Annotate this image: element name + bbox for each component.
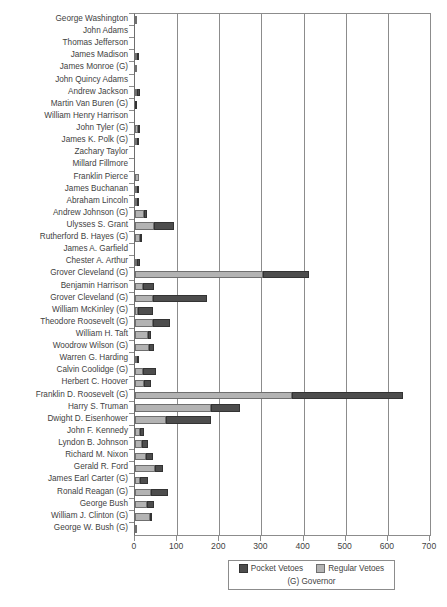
bar-segment-pocket-vetoes [151,489,167,496]
y-axis-label: Benjamin Harrison [0,280,128,292]
bar-segment-regular-vetoes [135,222,154,229]
legend-swatch-regular-icon [316,564,325,573]
bar-segment-pocket-vetoes [137,198,139,205]
bar-row [135,523,430,535]
y-axis-label: Dwight D. Eisenhower [0,413,128,425]
legend-item-pocket: Pocket Vetoes [239,564,303,573]
y-axis-label: John Adams [0,25,128,37]
y-axis-label: George W. Bush (G) [0,522,128,534]
bar-row [135,377,430,389]
legend-note: (G) Governor [229,576,394,589]
stacked-bar [135,356,139,363]
y-axis-label: William H. Taft [0,328,128,340]
bar-row [135,172,430,184]
stacked-bar [135,453,153,460]
bar-segment-regular-vetoes [135,501,147,508]
bar-row [135,511,430,523]
bar-row [135,341,430,353]
y-axis-label: Franklin Pierce [0,171,128,183]
bar-rows [135,14,430,535]
bar-row [135,426,430,438]
bar-segment-pocket-vetoes [137,89,140,96]
bar-segment-pocket-vetoes [150,513,152,520]
chart-legend: Pocket VetoesRegular Vetoes (G) Governor [228,560,395,590]
bar-row [135,293,430,305]
bar-row [135,268,430,280]
bar-row [135,111,430,123]
y-axis-label: Calvin Coolidge (G) [0,364,128,376]
y-axis-label: Herbert C. Hoover [0,376,128,388]
y-axis-label: Grover Cleveland (G) [0,267,128,279]
stacked-bar [135,65,137,72]
y-axis-label: Grover Cleveland (G) [0,292,128,304]
bar-segment-pocket-vetoes [146,453,153,460]
bar-segment-regular-vetoes [135,513,150,520]
stacked-bar [135,259,140,266]
y-axis-label: James Madison [0,49,128,61]
bar-row [135,256,430,268]
stacked-bar [135,380,151,387]
stacked-bar [135,392,403,399]
y-axis-label: Ulysses S. Grant [0,219,128,231]
bar-row [135,147,430,159]
bar-segment-regular-vetoes [135,465,155,472]
bar-segment-regular-vetoes [135,344,149,351]
legend-label: Pocket Vetoes [251,564,303,573]
y-axis-label: Martin Van Buren (G) [0,98,128,110]
bar-row [135,159,430,171]
stacked-bar [135,404,240,411]
stacked-bar [135,307,153,314]
stacked-bar [135,295,207,302]
stacked-bar [135,368,156,375]
bar-row [135,14,430,26]
bar-segment-regular-vetoes [135,440,142,447]
bar-segment-pocket-vetoes [137,186,139,193]
bar-segment-regular-vetoes [135,295,153,302]
bar-row [135,462,430,474]
bar-segment-regular-vetoes [135,453,146,460]
bar-segment-pocket-vetoes [166,416,212,423]
bar-segment-pocket-vetoes [143,368,156,375]
bar-segment-pocket-vetoes [135,101,137,108]
stacked-bar [135,186,139,193]
bar-row [135,365,430,377]
bar-segment-regular-vetoes [135,331,148,338]
bar-segment-pocket-vetoes [138,307,153,314]
bar-segment-pocket-vetoes [137,259,140,266]
bar-row [135,499,430,511]
x-axis-label: 500 [338,541,352,551]
bar-row [135,208,430,220]
y-axis-label: Thomas Jefferson [0,37,128,49]
stacked-bar [135,283,154,290]
gridline-700 [430,14,431,535]
y-axis-label: James K. Polk (G) [0,134,128,146]
y-axis-label: Rutherford B. Hayes (G) [0,231,128,243]
x-axis-label: 600 [380,541,394,551]
y-axis-label: William McKinley (G) [0,304,128,316]
bar-segment-pocket-vetoes [137,53,139,60]
y-axis-label: George Washington [0,13,128,25]
y-axis-label: Andrew Johnson (G) [0,207,128,219]
bar-row [135,75,430,87]
bar-segment-regular-vetoes [135,271,263,278]
bar-row [135,317,430,329]
bar-row [135,99,430,111]
stacked-bar [135,125,140,132]
bar-segment-regular-vetoes [135,404,211,411]
bar-segment-pocket-vetoes [155,465,163,472]
bar-row [135,26,430,38]
bar-row [135,87,430,99]
y-axis-label: John Tyler (G) [0,122,128,134]
bar-row [135,329,430,341]
stacked-bar [135,222,174,229]
y-axis-label: George Bush [0,498,128,510]
y-axis-label: Harry S. Truman [0,401,128,413]
stacked-bar [135,428,144,435]
bar-segment-regular-vetoes [135,16,137,23]
bar-row [135,474,430,486]
stacked-bar [135,101,137,108]
stacked-bar [135,440,148,447]
bar-segment-regular-vetoes [135,380,144,387]
bar-segment-pocket-vetoes [143,283,154,290]
y-axis-label: William J. Clinton (G) [0,510,128,522]
